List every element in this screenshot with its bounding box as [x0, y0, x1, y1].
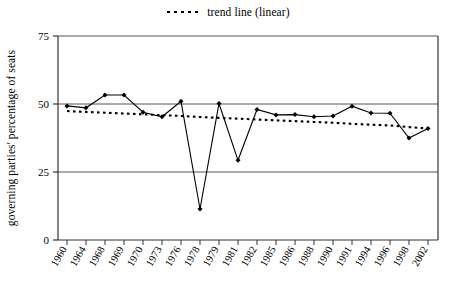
data-point-marker — [255, 107, 260, 112]
x-tick-label: 1990 — [315, 245, 335, 269]
x-tick-label: 1994 — [353, 244, 373, 268]
x-tick-label: 1976 — [163, 245, 183, 269]
trend-line-series — [67, 111, 428, 128]
data-point-marker — [274, 112, 279, 117]
x-tick-label: 1969 — [106, 245, 126, 269]
x-tick-label: 1985 — [258, 245, 278, 269]
x-tick-marks — [67, 240, 428, 245]
chart-figure: trend line (linear) governing parties' p… — [0, 0, 456, 290]
x-tick-label: 1981 — [220, 245, 240, 269]
y-tick-label-75: 75 — [38, 30, 50, 42]
data-point-marker — [331, 113, 336, 118]
chart-plot-area: 75 50 25 0 19601964196819691970197319761… — [0, 0, 456, 290]
y-tick-label-25: 25 — [38, 166, 50, 178]
data-line-series — [67, 95, 428, 209]
x-tick-label: 1986 — [277, 245, 297, 269]
gridlines-group — [58, 36, 438, 172]
x-tick-label: 1960 — [49, 245, 69, 269]
x-tick-label: 2002 — [410, 245, 430, 269]
data-point-marker — [293, 112, 298, 117]
x-tick-label: 1968 — [87, 245, 107, 269]
x-tick-label: 1988 — [296, 245, 316, 269]
x-tick-label: 1982 — [239, 245, 259, 269]
data-point-markers — [65, 93, 431, 212]
axes-group — [58, 36, 438, 240]
y-tick-label-50: 50 — [38, 98, 50, 110]
x-tick-label: 1998 — [391, 245, 411, 269]
x-tick-label: 1996 — [372, 245, 392, 269]
x-tick-label: 1991 — [334, 245, 354, 269]
y-tick-labels: 75 50 25 0 — [38, 30, 50, 246]
data-point-marker — [198, 206, 203, 211]
y-tick-marks — [53, 36, 58, 240]
data-point-marker — [369, 110, 374, 115]
data-point-marker — [312, 114, 317, 119]
x-tick-label: 1964 — [68, 244, 88, 268]
data-point-marker — [426, 126, 431, 131]
x-tick-label: 1973 — [144, 245, 164, 269]
x-tick-label: 1979 — [201, 245, 221, 269]
x-tick-labels: 1960196419681969197019731976197819791981… — [49, 244, 430, 268]
data-point-marker — [217, 101, 222, 106]
y-tick-label-0: 0 — [44, 234, 50, 246]
data-point-marker — [236, 158, 241, 163]
x-tick-label: 1970 — [125, 245, 145, 269]
x-tick-label: 1978 — [182, 245, 202, 269]
